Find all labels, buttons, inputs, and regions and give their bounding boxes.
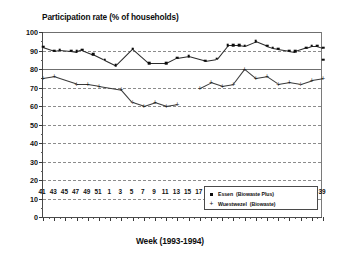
data-point: [103, 58, 106, 61]
y-tick: [39, 32, 43, 33]
data-point: [148, 62, 151, 65]
x-axis-title: Week (1993-1994): [0, 236, 340, 246]
y-tick: [39, 162, 43, 163]
gridline: [43, 106, 321, 107]
y-tick: [39, 180, 43, 181]
gridline: [43, 69, 321, 70]
gridline: [43, 125, 321, 126]
y-tick-label: 0: [0, 213, 38, 222]
data-point: [130, 100, 135, 105]
data-point: [298, 81, 303, 86]
y-tick-minor: [41, 60, 43, 61]
gridline: [43, 88, 321, 89]
x-tick-label: 45: [61, 188, 68, 195]
x-tick-label: 15: [184, 188, 191, 195]
y-tick-label: 20: [0, 176, 38, 185]
y-tick-minor: [41, 115, 43, 116]
data-point: [59, 48, 62, 51]
data-point: [271, 46, 274, 49]
data-point: [42, 46, 45, 49]
data-point: [187, 55, 190, 58]
data-point: [231, 81, 236, 86]
gridline: [43, 162, 321, 163]
series-connector: [188, 56, 205, 62]
chart-container: Participation rate (% of households) 010…: [0, 0, 340, 260]
data-point: [75, 50, 78, 53]
data-point: [311, 45, 314, 48]
data-point: [53, 49, 56, 52]
data-point: [227, 44, 230, 47]
data-point: [85, 81, 90, 86]
data-point: [322, 58, 325, 61]
x-tick-label: 51: [94, 188, 101, 195]
legend-label-wuestwezel: Wuestwezel: [218, 201, 247, 207]
data-point: [305, 46, 308, 49]
data-point: [131, 47, 134, 50]
data-point: [242, 67, 247, 72]
y-tick-label: 70: [0, 83, 38, 92]
y-tick-label: 80: [0, 65, 38, 74]
y-tick: [39, 125, 43, 126]
x-tick-label: 7: [141, 188, 145, 195]
gridline: [43, 180, 321, 181]
data-point: [197, 85, 202, 90]
x-tick-label: 9: [152, 188, 156, 195]
x-tick-label: 43: [50, 188, 57, 195]
data-point: [238, 44, 241, 47]
data-point: [309, 78, 314, 83]
data-point: [316, 45, 319, 48]
series-connector: [217, 45, 229, 60]
legend-sublabel-essen: (Biowaste Plus): [236, 191, 274, 197]
x-tick-label: 5: [130, 188, 134, 195]
y-tick-minor: [41, 152, 43, 153]
data-point: [255, 40, 258, 43]
x-tick-label: 3: [119, 188, 123, 195]
gridline: [43, 32, 321, 33]
y-tick-label: 100: [0, 28, 38, 37]
chart-title: Participation rate (% of households): [42, 12, 179, 22]
data-point: [265, 74, 270, 79]
data-point: [176, 57, 179, 60]
x-axis-line: [42, 217, 322, 218]
data-point: [220, 83, 225, 88]
y-tick-minor: [41, 208, 43, 209]
data-point: [276, 81, 281, 86]
gridline: [43, 143, 321, 144]
data-point: [232, 44, 235, 47]
y-tick-minor: [41, 41, 43, 42]
data-point: [294, 50, 297, 53]
data-point: [81, 48, 84, 51]
x-tick-label: 41: [38, 188, 45, 195]
legend-item-essen[interactable]: Essen (Biowaste Plus): [208, 189, 314, 199]
legend-square-marker-icon: [208, 189, 215, 199]
data-point: [119, 87, 124, 92]
chart-legend: Essen (Biowaste Plus) + Wuestwezel (Biow…: [204, 186, 318, 210]
x-tick-label: 13: [173, 188, 180, 195]
data-point: [74, 81, 79, 86]
data-point: [141, 104, 146, 109]
y-tick: [39, 51, 43, 52]
data-point: [215, 58, 218, 61]
y-tick-label: 40: [0, 139, 38, 148]
legend-label-essen: Essen: [218, 191, 233, 197]
data-point: [115, 64, 118, 67]
data-point: [204, 59, 207, 62]
legend-sublabel-wuestwezel: (Biowaste): [250, 201, 276, 207]
data-point: [288, 49, 291, 52]
y-tick: [39, 88, 43, 89]
series-connector: [149, 63, 166, 64]
data-point: [165, 62, 168, 65]
x-tick-label: 49: [83, 188, 90, 195]
data-point: [277, 47, 280, 50]
legend-plus-marker-icon: +: [208, 199, 215, 209]
data-point: [253, 76, 258, 81]
y-tick-label: 60: [0, 102, 38, 111]
data-point: [52, 74, 57, 79]
data-point: [175, 102, 180, 107]
y-tick-label: 10: [0, 194, 38, 203]
legend-item-wuestwezel[interactable]: + Wuestwezel (Biowaste): [208, 199, 314, 209]
x-tick: [323, 217, 324, 221]
data-point: [322, 46, 325, 49]
data-point: [287, 79, 292, 84]
y-tick-label: 50: [0, 120, 38, 129]
